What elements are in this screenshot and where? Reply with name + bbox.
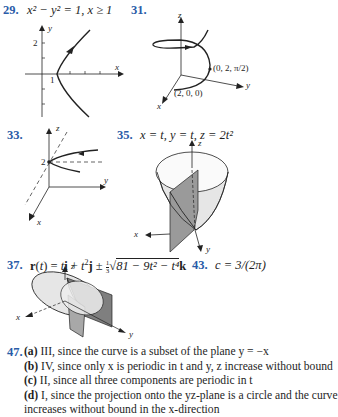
answer-b: (b) IV, since only x is periodic in t an…	[24, 360, 310, 375]
z-axis-label: z	[71, 261, 75, 271]
x-axis-label: x	[134, 229, 138, 239]
ellipsoid-graph	[10, 265, 140, 340]
z-axis-label: z	[56, 123, 60, 133]
answer-d-continuation-text: increases without bound in the x-directi…	[24, 403, 219, 416]
problem-number-31: 31.	[131, 3, 147, 18]
answer-d-label: (d)	[24, 389, 38, 402]
y-axis-label: y	[246, 80, 250, 90]
answer-a-label: (a)	[24, 345, 38, 358]
figure-35-paraboloid: z y x	[140, 140, 260, 255]
figure-31-helix: z y x (0, 2, π/2) (2, 0, 0)	[150, 0, 310, 125]
z-axis-label: z	[198, 138, 202, 148]
answer-c-text: II, since all three components are perio…	[40, 374, 253, 387]
answer-d: (d) I, since the projection onto the yz-…	[24, 389, 310, 404]
y-axis-label: y	[129, 329, 133, 339]
z-axis-label: z	[178, 10, 182, 20]
paraboloid-graph	[140, 140, 260, 255]
answer-b-text: IV, since only x is periodic in t and y,…	[41, 360, 333, 373]
x-axis-label: x	[115, 62, 119, 72]
x-axis-label: x	[16, 312, 20, 322]
y-axis-label: y	[48, 23, 52, 33]
point-label-2-0-0: (2, 0, 0)	[174, 88, 203, 98]
point-label-0-2-pi2: (0, 2, π/2)	[213, 63, 249, 73]
problem-number-43: 43.	[192, 258, 208, 273]
problem-number-35: 35.	[117, 128, 133, 143]
x-axis-label: x	[157, 101, 161, 111]
y-axis-label: y	[104, 175, 108, 185]
figure-29-hyperbola: y x 2 1	[0, 0, 150, 125]
answer-c: (c) II, since all three components are p…	[24, 374, 310, 389]
x-tick-label-1: 1	[50, 75, 55, 85]
answer-d-continuation: increases without bound in the x-directi…	[24, 403, 310, 417]
x-axis-label: x	[37, 217, 41, 227]
problem-number-47: 47.	[7, 345, 23, 360]
eq-k: k	[179, 259, 186, 273]
figure-37-ellipsoid: z x y	[10, 265, 140, 340]
hyperbola-graph	[0, 0, 150, 125]
problem-43-equation: c = 3/(2π)	[215, 258, 266, 273]
answer-d-text: I, since the projection onto the yz-plan…	[41, 389, 337, 402]
y-tick-label-2: 2	[33, 38, 38, 48]
y-axis-label: y	[206, 244, 210, 254]
answer-a: (a) III, since the curve is a subset of …	[24, 345, 310, 360]
answer-a-text: III, since the curve is a subset of the …	[40, 345, 268, 358]
z-tick-label-2: 2	[41, 157, 46, 167]
answer-c-label: (c)	[24, 374, 37, 387]
problem-47-answers: (a) III, since the curve is a subset of …	[24, 345, 310, 417]
answer-b-label: (b)	[24, 360, 38, 373]
